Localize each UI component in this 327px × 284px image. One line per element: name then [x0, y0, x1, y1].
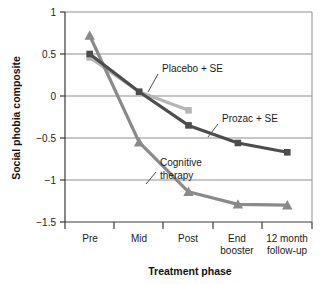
prozac-se-point-1	[136, 89, 143, 96]
x-label-pre: Pre	[82, 233, 98, 244]
y-tick-labels: 1 0.5 0 −0.5 −1 −1.5	[36, 7, 56, 228]
x-label-end-booster-line1: End	[228, 233, 246, 244]
prozac-se-point-4	[284, 149, 291, 156]
annotation-label-cognitive-line2: therapy	[160, 170, 193, 181]
annotation-label-prozac-se: Prozac + SE	[222, 113, 278, 124]
x-label-12-month-line2: follow-up	[267, 245, 307, 256]
x-axis-title: Treatment phase	[148, 265, 232, 277]
placebo-se-point-2	[185, 107, 192, 114]
y-tick-marks	[60, 12, 65, 222]
chart-container: 1 0.5 0 −0.5 −1 −1.5 Pre Mid Post End bo…	[0, 0, 327, 284]
x-label-mid: Mid	[131, 233, 147, 244]
prozac-se-point-2	[185, 122, 192, 129]
y-tick-label-0: 0	[50, 91, 56, 102]
y-tick-label-neg1.5: −1.5	[36, 217, 56, 228]
x-label-post: Post	[178, 233, 198, 244]
x-category-labels: Pre Mid Post End booster 12 month follow…	[82, 233, 308, 256]
x-label-end-booster-line2: booster	[220, 245, 254, 256]
social-phobia-line-chart: 1 0.5 0 −0.5 −1 −1.5 Pre Mid Post End bo…	[0, 0, 327, 284]
y-tick-label-neg1: −1	[45, 175, 57, 186]
x-tick-marks	[65, 222, 312, 229]
prozac-se-point-3	[235, 140, 242, 147]
y-tick-label-0.5: 0.5	[42, 49, 56, 60]
y-axis-title: Social phobia composite	[10, 56, 22, 180]
y-tick-label-neg0.5: −0.5	[36, 133, 56, 144]
y-tick-label-1: 1	[50, 7, 56, 18]
annotation-label-cognitive-line1: Cognitive	[160, 157, 202, 168]
x-label-12-month-line1: 12 month	[266, 233, 308, 244]
prozac-se-point-0	[86, 51, 93, 58]
annotation-label-placebo-se: Placebo + SE	[162, 63, 223, 74]
